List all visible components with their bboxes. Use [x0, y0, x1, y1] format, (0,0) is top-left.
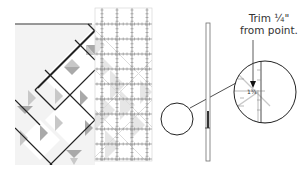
edge-bar — [206, 23, 210, 161]
magnifier-label-upper: 1¾ — [247, 88, 257, 95]
magnifier-connector — [190, 83, 236, 108]
trim-instruction-callout: Trim ¼" from point. — [238, 12, 300, 36]
callout-line-1: Trim ¼" — [238, 12, 300, 24]
quilting-ruler — [95, 8, 175, 161]
quilt-edge-profile — [205, 23, 210, 161]
magnifier-detail: 1¾ 1½ — [232, 40, 296, 126]
callout-line-2: from point. — [238, 24, 300, 36]
magnifier-source-circle — [161, 103, 193, 135]
